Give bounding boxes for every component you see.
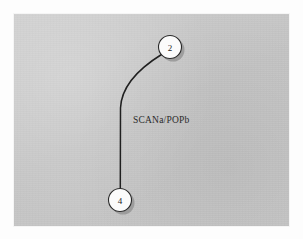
edge-2-4: SCANa/POPb — [120, 55, 189, 189]
edge-label-scana-popb: SCANa/POPb — [133, 115, 189, 125]
node-2-label: 2 — [168, 43, 173, 53]
node-4[interactable]: 4 — [109, 189, 135, 215]
figure-root: SCANa/POPb 2 4 — [0, 0, 303, 239]
node-4-label: 4 — [118, 196, 123, 206]
state-transition-graph: SCANa/POPb 2 4 — [0, 0, 303, 239]
node-2[interactable]: 2 — [159, 36, 185, 62]
